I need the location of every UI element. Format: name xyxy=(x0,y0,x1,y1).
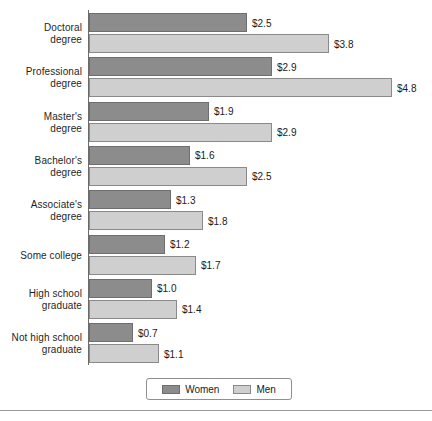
bar-group: Master'sdegree$1.9$2.9 xyxy=(0,101,432,145)
bar-men xyxy=(89,211,203,230)
bar-value-label: $3.8 xyxy=(329,38,353,49)
bar-value-label: $1.4 xyxy=(177,304,201,315)
legend-swatch-icon xyxy=(233,385,251,394)
bar-women xyxy=(89,102,209,121)
bar-value-label: $1.0 xyxy=(152,283,176,294)
bar-value-label: $0.7 xyxy=(133,327,157,338)
category-label: Not high schoolgraduate xyxy=(0,322,82,366)
bar-value-label: $2.9 xyxy=(272,127,296,138)
category-label-line: Doctoral xyxy=(44,22,82,34)
category-label-line: degree xyxy=(50,211,82,223)
bar-women xyxy=(89,57,272,76)
category-label: Some college xyxy=(0,234,82,278)
bar-men xyxy=(89,78,392,97)
bar-women xyxy=(89,13,247,32)
bar-value-label: $1.9 xyxy=(209,106,233,117)
category-label-line: Some college xyxy=(20,250,82,262)
bar-men xyxy=(89,34,329,53)
bottom-divider xyxy=(0,410,432,411)
bar-value-label: $2.9 xyxy=(272,61,296,72)
bar-value-label: $1.8 xyxy=(203,215,227,226)
bar-value-label: $1.1 xyxy=(159,348,183,359)
category-label: High schoolgraduate xyxy=(0,278,82,322)
category-label-line: degree xyxy=(50,123,82,135)
legend-item[interactable]: Women xyxy=(162,384,219,395)
bar-men xyxy=(89,256,196,275)
bar-women xyxy=(89,146,190,165)
bar-group: Bachelor'sdegree$1.6$2.5 xyxy=(0,145,432,189)
bar-men xyxy=(89,344,159,363)
category-label-line: High school xyxy=(29,288,82,300)
bar-value-label: $4.8 xyxy=(392,82,416,93)
bar-value-label: $2.5 xyxy=(247,17,271,28)
legend-swatch-icon xyxy=(162,385,180,394)
plot-area: Doctoraldegree$2.5$3.8Professionaldegree… xyxy=(0,0,432,372)
bar-men xyxy=(89,300,177,319)
category-label-line: degree xyxy=(50,78,82,90)
legend-item[interactable]: Men xyxy=(233,384,275,395)
category-label-line: Professional xyxy=(26,66,82,78)
category-label-line: Bachelor's xyxy=(35,155,82,167)
bar-group: Doctoraldegree$2.5$3.8 xyxy=(0,12,432,56)
bar-value-label: $1.2 xyxy=(165,239,189,250)
bar-value-label: $2.5 xyxy=(247,171,271,182)
category-label: Doctoraldegree xyxy=(0,12,82,56)
category-label-line: graduate xyxy=(42,300,82,312)
category-label-line: Associate's xyxy=(31,199,82,211)
bar-men xyxy=(89,167,247,186)
category-label: Bachelor'sdegree xyxy=(0,145,82,189)
bar-group: Not high schoolgraduate$0.7$1.1 xyxy=(0,322,432,366)
category-label: Professionaldegree xyxy=(0,56,82,100)
bar-value-label: $1.6 xyxy=(190,150,214,161)
category-label-line: Not high school xyxy=(12,332,82,344)
bar-group: High schoolgraduate$1.0$1.4 xyxy=(0,278,432,322)
category-label-line: Master's xyxy=(44,111,82,123)
category-label-line: graduate xyxy=(42,344,82,356)
bar-group: Professionaldegree$2.9$4.8 xyxy=(0,56,432,100)
category-label: Master'sdegree xyxy=(0,101,82,145)
category-label: Associate'sdegree xyxy=(0,189,82,233)
bar-group: Associate'sdegree$1.3$1.8 xyxy=(0,189,432,233)
bar-women xyxy=(89,279,152,298)
category-label-line: degree xyxy=(50,34,82,46)
bar-chart: Doctoraldegree$2.5$3.8Professionaldegree… xyxy=(0,0,432,421)
legend-label: Women xyxy=(185,384,219,395)
bar-women xyxy=(89,323,133,342)
bar-women xyxy=(89,190,171,209)
category-label-line: degree xyxy=(50,167,82,179)
bar-value-label: $1.7 xyxy=(196,260,220,271)
bar-men xyxy=(89,123,272,142)
chart-legend: WomenMen xyxy=(146,378,292,400)
bar-value-label: $1.3 xyxy=(171,194,195,205)
legend-label: Men xyxy=(256,384,275,395)
bar-women xyxy=(89,235,165,254)
bar-group: Some college$1.2$1.7 xyxy=(0,234,432,278)
